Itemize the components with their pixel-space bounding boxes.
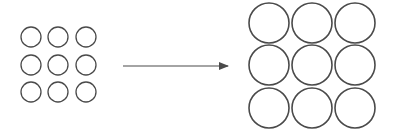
small-circle-r1-c3 <box>76 27 96 47</box>
large-circle-r2-c2 <box>292 45 332 85</box>
small-circle-grid <box>21 27 96 102</box>
small-circle-r2-c2 <box>48 55 68 75</box>
small-circle-r1-c1 <box>21 27 41 47</box>
diagram-canvas <box>0 0 393 134</box>
large-circle-r1-c3 <box>335 3 375 43</box>
large-circle-grid <box>249 3 375 128</box>
large-circle-r1-c1 <box>249 3 289 43</box>
small-circle-r3-c2 <box>48 82 68 102</box>
small-circle-r3-c1 <box>21 82 41 102</box>
small-circle-r1-c2 <box>48 27 68 47</box>
diagram-svg <box>0 0 393 134</box>
small-circle-r2-c1 <box>21 55 41 75</box>
large-circle-r3-c2 <box>292 88 332 128</box>
large-circle-r3-c3 <box>335 88 375 128</box>
small-circle-r3-c3 <box>76 82 96 102</box>
large-circle-r2-c3 <box>335 45 375 85</box>
large-circle-r2-c1 <box>249 45 289 85</box>
large-circle-r1-c2 <box>292 3 332 43</box>
large-circle-r3-c1 <box>249 88 289 128</box>
small-circle-r2-c3 <box>76 55 96 75</box>
